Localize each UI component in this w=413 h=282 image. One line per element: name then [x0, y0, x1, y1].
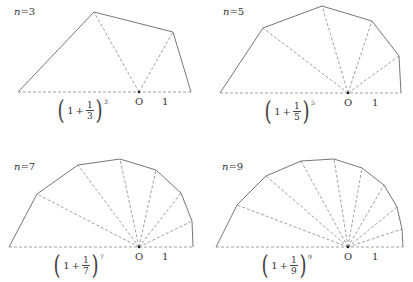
spiral-polygon	[18, 12, 191, 92]
n-value: 7	[29, 161, 35, 172]
n-value: 9	[237, 161, 243, 172]
formula-one: 1	[271, 260, 277, 271]
right-paren: )	[302, 97, 309, 125]
n-label: n=3	[14, 6, 35, 17]
spiral-polygon	[9, 159, 193, 247]
denominator: 5	[294, 112, 300, 122]
fraction: 17	[82, 255, 90, 276]
spoke-line	[348, 207, 397, 247]
n-value: 5	[238, 6, 244, 17]
left-paren: (	[265, 97, 272, 125]
fraction: 13	[86, 100, 94, 121]
origin-label: O	[344, 97, 352, 108]
spoke-line	[301, 161, 348, 247]
exponent: 7	[100, 253, 104, 260]
right-paren: )	[91, 251, 98, 279]
origin-dot	[138, 91, 141, 94]
spiral-polygon	[220, 6, 401, 93]
spoke-line	[348, 21, 372, 93]
unit-length-label: 1	[162, 96, 168, 107]
spoke-line	[139, 170, 156, 247]
equals-sign: =	[228, 161, 236, 172]
formula-plus: +	[280, 260, 288, 271]
origin-dot	[138, 246, 141, 249]
unit-length-label: 1	[372, 97, 378, 108]
origin-label: O	[344, 251, 352, 262]
spoke-line	[322, 6, 348, 93]
formula-plus: +	[72, 260, 80, 271]
spoke-line	[263, 28, 348, 93]
spoke-line	[348, 56, 399, 93]
spoke-line	[348, 168, 362, 247]
length-formula: (1+19)9	[260, 251, 312, 279]
numerator: 1	[294, 101, 300, 111]
fraction: 15	[293, 101, 301, 122]
denominator: 9	[291, 266, 297, 276]
spoke-line	[139, 221, 192, 247]
spoke-line	[94, 12, 139, 92]
panel-n-7	[9, 159, 193, 248]
n-value: 3	[29, 6, 35, 17]
numerator: 1	[291, 255, 297, 265]
length-formula: (1+17)7	[52, 251, 104, 279]
spiral-polygon	[216, 159, 403, 247]
length-formula: (1+15)5	[263, 97, 315, 125]
n-label: n=7	[14, 161, 35, 172]
spoke-line	[334, 159, 348, 247]
numerator: 1	[83, 255, 89, 265]
unit-length-label: 1	[372, 251, 378, 262]
equals-sign: =	[20, 161, 28, 172]
unit-length-label: 1	[162, 251, 168, 262]
formula-one: 1	[274, 106, 280, 117]
exponent: 3	[104, 98, 108, 105]
numerator: 1	[87, 100, 93, 110]
panel-n-9	[216, 159, 403, 248]
spoke-line	[266, 176, 348, 247]
left-paren: (	[54, 251, 61, 279]
panel-n-5	[220, 6, 401, 94]
n-label: n=5	[223, 6, 244, 17]
formula-one: 1	[63, 260, 69, 271]
origin-label: O	[135, 96, 143, 107]
left-paren: (	[262, 251, 269, 279]
left-paren: (	[58, 96, 65, 124]
origin-dot	[347, 92, 350, 95]
exponent: 5	[311, 99, 315, 106]
fraction: 19	[290, 255, 298, 276]
denominator: 7	[83, 266, 89, 276]
spoke-line	[237, 205, 348, 247]
equals-sign: =	[229, 6, 237, 17]
panel-n-3	[18, 12, 191, 93]
origin-label: O	[135, 251, 143, 262]
denominator: 3	[87, 111, 93, 121]
equals-sign: =	[20, 6, 28, 17]
length-formula: (1+13)3	[56, 96, 108, 124]
right-paren: )	[299, 251, 306, 279]
spoke-line	[139, 32, 173, 92]
formula-one: 1	[67, 105, 73, 116]
formula-plus: +	[283, 106, 291, 117]
right-paren: )	[95, 96, 102, 124]
spoke-line	[348, 229, 402, 247]
n-label: n=9	[222, 161, 243, 172]
formula-plus: +	[76, 105, 84, 116]
origin-dot	[347, 246, 350, 249]
exponent: 9	[308, 253, 312, 260]
diagram-canvas	[0, 0, 413, 282]
spoke-line	[37, 194, 139, 247]
